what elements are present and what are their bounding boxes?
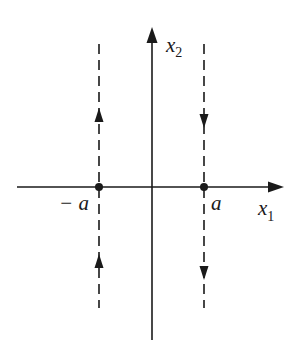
a-label: a bbox=[211, 191, 222, 215]
x2-axis-arrowhead-icon bbox=[147, 27, 158, 43]
equilibrium-point-neg-a bbox=[95, 183, 103, 191]
phase-portrait-diagram: x2 x1 − a a bbox=[0, 0, 298, 354]
x1-axis-label: x1 bbox=[257, 196, 274, 224]
trajectory-left-dashed bbox=[95, 44, 104, 308]
arrow-up-icon bbox=[95, 108, 104, 122]
arrow-up-icon bbox=[95, 254, 104, 268]
neg-a-label: − a bbox=[59, 191, 89, 215]
arrow-down-icon bbox=[200, 266, 209, 280]
trajectory-right-dashed bbox=[200, 44, 209, 308]
arrow-down-icon bbox=[200, 114, 209, 128]
equilibrium-point-a bbox=[200, 183, 208, 191]
x2-axis bbox=[147, 27, 158, 340]
x2-axis-label: x2 bbox=[165, 33, 182, 60]
x1-axis-arrowhead-icon bbox=[268, 182, 284, 193]
x1-axis bbox=[17, 182, 284, 193]
